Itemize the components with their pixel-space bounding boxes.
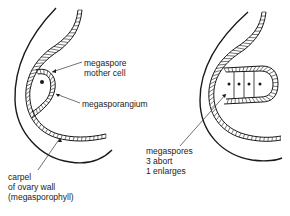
cell-wall-tick — [236, 48, 245, 50]
cell-wall-tick — [272, 89, 277, 90]
leader-megasporangium — [56, 94, 80, 103]
cell-wall-tick — [26, 99, 30, 102]
cell-wall-tick — [36, 109, 37, 114]
cell-wall-tick — [41, 105, 43, 109]
label-line: of ovary wall — [8, 182, 74, 192]
cell-wall-tick — [77, 137, 78, 141]
cell-wall-tick — [65, 136, 66, 140]
cell-wall-tick — [231, 99, 232, 104]
cell-wall-tick — [210, 101, 214, 105]
cell-wall-tick — [57, 134, 59, 138]
cell-wall-tick — [47, 51, 56, 52]
cell-wall-tick — [61, 135, 62, 139]
label-carpel: carpel of ovary wall (megasporophyll) — [8, 172, 74, 202]
cell-wall-tick — [209, 93, 214, 97]
cell-wall-tick — [232, 130, 234, 134]
cell-wall-tick — [53, 133, 55, 137]
cell-wall-tick — [216, 116, 219, 120]
megaspore-nucleus-3 — [248, 83, 251, 86]
cell-wall-tick — [44, 54, 52, 55]
cell-wall-tick — [235, 131, 237, 135]
cell-wall-tick — [251, 136, 252, 140]
cell-wall-tick — [239, 45, 247, 46]
cell-wall-tick — [232, 68, 233, 72]
megaspore-nucleus-1 — [228, 83, 231, 86]
cell-wall-tick — [250, 67, 252, 72]
cell-wall-tick — [260, 137, 261, 141]
cell-wall-tick — [45, 101, 48, 103]
megasporangium-outline — [32, 69, 55, 118]
cell-wall-tick — [243, 43, 251, 44]
cell-wall-tick — [218, 64, 226, 65]
cell-wall-tick — [225, 125, 227, 129]
cell-wall-tick — [247, 135, 248, 139]
cell-wall-tick — [64, 39, 71, 40]
cell-wall-tick — [73, 137, 74, 141]
cell-wall-tick — [249, 98, 251, 103]
cell-wall-tick — [243, 67, 244, 72]
cell-wall-tick — [30, 111, 33, 115]
cell-wall-tick — [209, 97, 214, 101]
cell-wall-tick — [239, 67, 240, 71]
cell-wall-tick — [228, 68, 229, 72]
cell-wall-tick — [51, 80, 55, 83]
cell-wall-tick — [268, 137, 269, 141]
cell-wall-tick — [50, 49, 59, 51]
cell-wall-tick — [259, 97, 263, 102]
cell-wall-tick — [269, 71, 274, 74]
cell-wall-tick — [224, 68, 226, 72]
cell-wall-tick — [50, 88, 55, 90]
cell-wall-tick — [49, 131, 51, 135]
right-ovule-diagram — [180, 12, 282, 161]
cell-wall-tick — [28, 107, 31, 110]
cell-wall-tick — [253, 66, 256, 71]
cell-wall-tick — [246, 67, 248, 72]
cell-wall-tick — [85, 137, 86, 141]
cell-wall-tick — [239, 133, 241, 137]
cell-wall-tick — [40, 69, 41, 73]
cell-wall-tick — [265, 96, 270, 100]
cell-wall-tick — [243, 134, 245, 138]
cell-wall-tick — [255, 137, 256, 141]
cell-wall-tick — [271, 92, 276, 94]
cell-wall-tick — [245, 98, 247, 103]
cell-wall-tick — [39, 107, 41, 111]
megasporangium-inner — [32, 74, 51, 112]
cell-wall-tick — [227, 99, 229, 104]
cell-wall-tick — [27, 103, 30, 106]
cell-wall-tick — [47, 71, 48, 76]
mother-cell-nucleus — [40, 80, 44, 84]
label-line: 3 abort — [146, 156, 193, 166]
cell-wall-tick — [26, 95, 30, 98]
cell-wall-tick — [42, 127, 44, 131]
label-megaspores: megaspores 3 abort 1 enlarges — [146, 146, 193, 176]
cell-wall-tick — [51, 84, 56, 87]
cell-wall-tick — [90, 137, 91, 141]
sporangium-wall-outer-right — [214, 12, 281, 137]
cell-wall-tick — [222, 122, 225, 126]
label-line: (megasporophyll) — [8, 192, 74, 202]
cell-wall-tick — [268, 95, 273, 98]
label-line: megaspores — [146, 146, 193, 156]
cell-wall-tick — [263, 67, 268, 71]
cell-wall-tick — [34, 66, 41, 67]
cell-wall-tick — [272, 78, 277, 79]
cell-wall-tick — [266, 68, 271, 72]
cell-wall-tick — [260, 66, 264, 71]
cell-wall-tick — [242, 98, 243, 103]
label-line: mother cell — [84, 68, 127, 78]
leader-megaspores — [180, 94, 226, 146]
left-ovule-diagram — [15, 8, 112, 170]
cell-wall-tick — [69, 136, 70, 140]
cell-wall-tick — [47, 98, 51, 99]
cell-wall-tick — [49, 73, 51, 78]
cell-wall-tick — [229, 53, 238, 54]
cell-wall-tick — [46, 129, 48, 133]
cell-wall-tick — [50, 76, 53, 80]
label-line: megaspore — [84, 58, 127, 68]
cell-wall-tick — [34, 118, 37, 122]
cell-wall-tick — [39, 124, 41, 128]
cell-wall-tick — [209, 89, 214, 92]
cell-wall-tick — [228, 127, 230, 131]
cell-wall-tick — [255, 97, 259, 102]
